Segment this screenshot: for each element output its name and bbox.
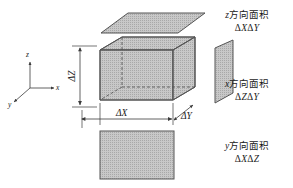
y-face-label-formula: ΔXΔZ — [203, 154, 291, 166]
delta-x-label: ΔX — [116, 108, 127, 118]
delta-z-label: ΔZ — [67, 64, 77, 88]
y-direction-face-shape — [100, 131, 174, 179]
control-volume-box — [100, 37, 195, 100]
axis-label-y: y — [8, 100, 11, 109]
z-face-direction-text: 方向面积 — [229, 9, 269, 20]
z-face-label-formula: ΔXΔY — [203, 23, 291, 35]
axis-label-x: x — [56, 83, 59, 92]
z-face-label: z方向面积 ΔXΔY — [203, 9, 291, 35]
y-face-label: y方向面积 ΔXΔZ — [203, 140, 291, 166]
x-face-label-formula: ΔZΔY — [203, 92, 291, 104]
x-face-label: x方向面积 ΔZΔY — [203, 78, 291, 104]
delta-y-label: ΔY — [181, 111, 192, 121]
delta-x-text: ΔX — [116, 108, 127, 118]
y-face-var2: Z — [254, 154, 260, 164]
delta-y-text: ΔY — [181, 111, 192, 121]
x-face-var2: Y — [253, 92, 259, 102]
x-face-direction-text: 方向面积 — [229, 78, 269, 89]
delta-z-text: ΔZ — [67, 71, 77, 82]
z-direction-face-shape — [101, 13, 205, 33]
z-face-var2: Y — [254, 23, 260, 33]
figure-root: z x y ΔZ ΔX ΔY z方向面积 ΔXΔY x方向面积 ΔZΔY y方向… — [0, 0, 293, 188]
z-face-label-title: z方向面积 — [203, 9, 291, 22]
y-face-label-title: y方向面积 — [203, 140, 291, 153]
axis-label-z: z — [26, 50, 29, 59]
x-face-label-title: x方向面积 — [203, 78, 291, 91]
y-face-direction-text: 方向面积 — [229, 140, 269, 151]
axis-triad — [14, 62, 54, 102]
